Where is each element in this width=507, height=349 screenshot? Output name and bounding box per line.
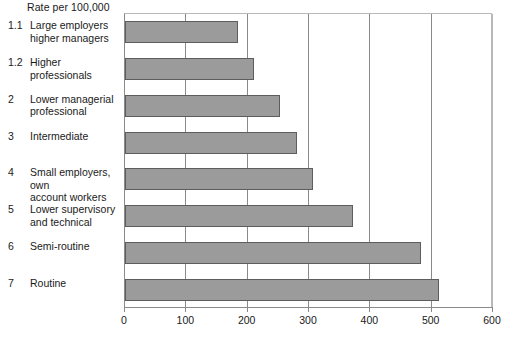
category-code: 1.1 xyxy=(8,19,30,32)
bar-chart: Rate per 100,000 1.1Large employershighe… xyxy=(0,0,507,349)
x-tick-label-0: 0 xyxy=(121,314,127,326)
x-tick-500 xyxy=(431,307,432,312)
category-code: 5 xyxy=(8,203,30,216)
category-row: 7Routine xyxy=(0,277,124,290)
x-tick-label-100: 100 xyxy=(177,314,195,326)
x-tick-label-500: 500 xyxy=(422,314,440,326)
axis-caption: Rate per 100,000 xyxy=(27,1,110,13)
x-tick-600 xyxy=(492,307,493,312)
category-label-column: 1.1Large employershigher managers1.2High… xyxy=(0,13,124,307)
category-row: 5Lower supervisoryand technical xyxy=(0,203,124,228)
bar xyxy=(125,132,297,154)
category-label: Large employershigher managers xyxy=(30,19,111,44)
x-tick-label-400: 400 xyxy=(361,314,379,326)
x-tick-label-600: 600 xyxy=(483,314,501,326)
category-row: 3Intermediate xyxy=(0,130,124,143)
bar xyxy=(125,95,280,117)
category-label: Routine xyxy=(30,277,68,290)
x-tick-300 xyxy=(308,307,309,312)
category-row: 6Semi-routine xyxy=(0,240,124,253)
category-label: Intermediate xyxy=(30,130,90,143)
category-code: 7 xyxy=(8,277,30,290)
gridline-600 xyxy=(492,14,493,307)
bar xyxy=(125,205,353,227)
plot-area xyxy=(124,13,492,307)
category-label: Semi-routine xyxy=(30,240,92,253)
x-tick-label-200: 200 xyxy=(238,314,256,326)
category-row: 2Lower managerialprofessional xyxy=(0,93,124,118)
x-tick-200 xyxy=(247,307,248,312)
category-label: Lower managerialprofessional xyxy=(30,93,115,118)
bar xyxy=(125,21,238,43)
category-code: 6 xyxy=(8,240,30,253)
category-code: 2 xyxy=(8,93,30,106)
bar xyxy=(125,279,439,301)
bar xyxy=(125,168,313,190)
category-label: Small employers, ownaccount workers xyxy=(30,166,124,204)
x-tick-400 xyxy=(369,307,370,312)
category-row: 1.1Large employershigher managers xyxy=(0,19,124,44)
category-row: 1.2Higher professionals xyxy=(0,56,124,81)
bar xyxy=(125,58,254,80)
bar xyxy=(125,242,421,264)
category-code: 3 xyxy=(8,130,30,143)
x-tick-label-300: 300 xyxy=(299,314,317,326)
x-tick-0 xyxy=(124,307,125,312)
category-code: 1.2 xyxy=(8,56,30,69)
category-label: Higher professionals xyxy=(30,56,124,81)
gridline-500 xyxy=(431,14,432,307)
category-row: 4Small employers, ownaccount workers xyxy=(0,166,124,204)
category-code: 4 xyxy=(8,166,30,179)
category-label: Lower supervisoryand technical xyxy=(30,203,117,228)
x-tick-100 xyxy=(185,307,186,312)
